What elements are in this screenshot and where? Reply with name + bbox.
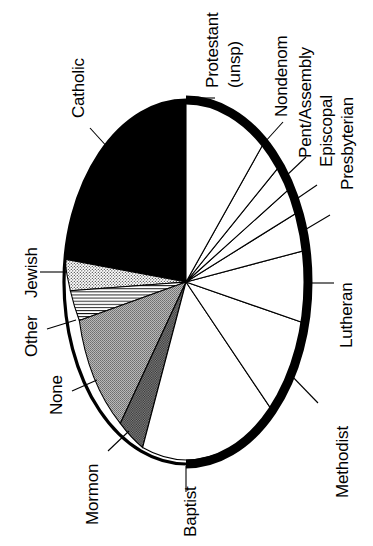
leader-catholic	[90, 128, 110, 150]
leader-episcopal	[295, 185, 317, 200]
label-lutheran: Lutheran	[337, 282, 356, 348]
leader-nondenom	[264, 122, 283, 143]
slice-catholic[interactable]	[65, 100, 186, 282]
pie-chart-figure: Protestant (unsp) Nondenom Pent/Assembly…	[0, 0, 373, 546]
label-pent-assembly: Pent/Assembly	[296, 47, 315, 158]
leader-presbyterian	[303, 215, 330, 231]
label-protestant-sub: (unsp)	[225, 41, 244, 88]
label-nondenom: Nondenom	[272, 35, 291, 117]
leader-pent-assembly	[286, 157, 306, 176]
leader-methodist	[288, 372, 318, 403]
label-jewish: Jewish	[22, 247, 41, 298]
pie-chart-svg: Protestant (unsp) Nondenom Pent/Assembly…	[0, 0, 373, 546]
label-presbyterian: Presbyterian	[338, 97, 357, 190]
label-none: None	[47, 375, 66, 415]
label-methodist: Methodist	[333, 426, 352, 498]
label-mormon: Mormon	[83, 464, 102, 525]
label-baptist: Baptist	[181, 486, 200, 537]
label-protestant: Protestant	[203, 12, 222, 88]
label-episcopal: Episcopal	[317, 95, 336, 167]
label-other: Other	[22, 315, 41, 357]
label-catholic: Catholic	[69, 57, 88, 118]
